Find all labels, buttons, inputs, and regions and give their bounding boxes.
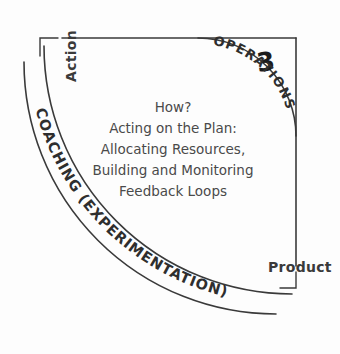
- diagram-canvas: Action Product 3 OPERATIONS COACHING (EX…: [0, 0, 340, 354]
- top-left-corner-bracket: [40, 38, 58, 56]
- operations-arc-label-text: OPERATIONS: [212, 33, 298, 112]
- center-text-line-2: Acting on the Plan:: [109, 120, 237, 136]
- center-description-block: How? Acting on the Plan: Allocating Reso…: [93, 99, 254, 199]
- center-text-line-3: Allocating Resources,: [101, 141, 245, 157]
- axis-label-product: Product: [268, 259, 332, 275]
- center-text-line-4: Building and Monitoring: [93, 162, 254, 178]
- center-text-line-5: Feedback Loops: [119, 183, 227, 199]
- axis-label-action: Action: [63, 30, 79, 82]
- operations-arc-label: OPERATIONS: [212, 33, 298, 112]
- center-text-line-1: How?: [155, 99, 192, 115]
- framework-quadrant-diagram: Action Product 3 OPERATIONS COACHING (EX…: [0, 0, 340, 354]
